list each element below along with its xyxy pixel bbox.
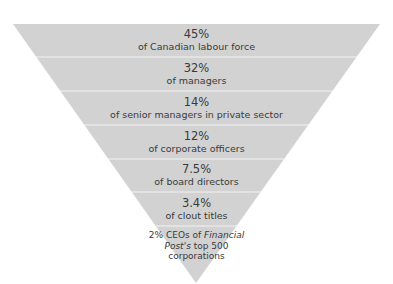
tier-label-line-2: Post's top 500	[0, 241, 393, 252]
tier-value: 12%	[0, 129, 393, 143]
tier-senior-managers: 14% of senior managers in private sector	[0, 95, 393, 121]
tier-label: of Canadian labour force	[0, 41, 393, 53]
tier-corporate-officers: 12% of corporate officers	[0, 129, 393, 155]
tier-value: 3.4%	[0, 196, 393, 210]
tier-clout-titles: 3.4% of clout titles	[0, 196, 393, 222]
tier-board-directors: 7.5% of board directors	[0, 162, 393, 188]
tier-value: 7.5%	[0, 162, 393, 176]
ceo-text: 2% CEOs of	[149, 230, 204, 240]
publication-name-part-1: Financial	[204, 230, 244, 240]
top-500-text: top 500	[191, 241, 229, 251]
tier-label: of board directors	[0, 176, 393, 188]
tier-label-line-3: corporations	[0, 251, 393, 262]
tier-labour-force: 45% of Canadian labour force	[0, 27, 393, 53]
tier-label: of corporate officers	[0, 143, 393, 155]
tier-label: of senior managers in private sector	[0, 109, 393, 121]
tier-label: of clout titles	[0, 210, 393, 222]
tier-label: of managers	[0, 75, 393, 87]
tier-label-line-1: 2% CEOs of Financial	[0, 230, 393, 241]
publication-name-part-2: Post's	[165, 241, 191, 251]
tier-managers: 32% of managers	[0, 61, 393, 87]
tier-ceos: 2% CEOs of Financial Post's top 500 corp…	[0, 230, 393, 262]
tier-value: 45%	[0, 27, 393, 41]
tier-value: 14%	[0, 95, 393, 109]
tier-value: 32%	[0, 61, 393, 75]
